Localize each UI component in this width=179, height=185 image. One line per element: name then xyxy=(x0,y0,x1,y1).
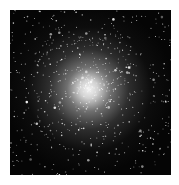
star-cluster-photo xyxy=(10,10,171,175)
star-field xyxy=(10,10,171,175)
